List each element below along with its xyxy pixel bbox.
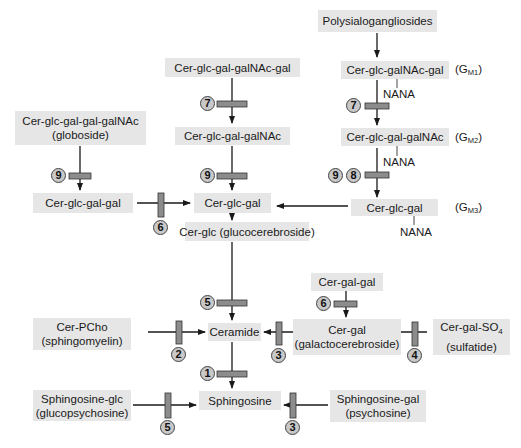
enzyme-badge: 6 [316,296,331,311]
node-polysialogangliosides: Polysialogangliosides [318,10,437,32]
node-label: Cer-glc-gal [366,201,422,215]
node-label: Polysialogangliosides [323,14,433,28]
node-glucocerebroside: Cer-glc (glucocerebroside) [185,222,309,241]
ganglioside-name-gm3: (GM3) [455,201,482,215]
nana-label-gm3: NANA [400,225,432,239]
enzyme-block-bar [365,103,389,109]
node-label: Cer-glc-gal-gal [45,196,120,210]
enzyme-badge: 2 [171,347,186,362]
enzyme-block-bar [165,393,171,418]
enzyme-badge: 1 [200,366,215,381]
node-label: Cer-gal [328,323,366,337]
node-label-text: Cer-gal-SO [440,321,498,333]
enzyme-block-bar [217,101,247,107]
node-trihexosylceramide: Cer-glc-gal-gal [33,193,133,213]
enzyme-badge: 3 [285,420,300,435]
node-label: Cer-glc-gal-gal-galNAc [22,114,138,128]
node-sulfatide: Cer-gal-SO4 (sulfatide) [433,319,510,355]
node-gm3: Cer-glc-gal [351,199,438,216]
g-subscript: M1 [468,68,478,77]
enzyme-badge: 9 [328,168,343,183]
g-letter: G [459,201,468,213]
node-sublabel: (glucopsychosine) [36,406,129,420]
node-sphingomyelin: Cer-PCho (sphingomyelin) [33,318,131,350]
node-label: Cer-glc-gal-galNAc [184,129,281,143]
enzyme-badge: 9 [200,168,215,183]
g-letter: G [459,63,468,75]
enzyme-badge: 4 [407,348,422,363]
enzyme-badge: 5 [200,295,215,310]
g-subscript: M3 [468,206,478,215]
g-letter: G [459,131,468,143]
ganglioside-name-gm2: (GM2) [455,131,482,145]
node-digalactosylceramide: Cer-gal-gal [311,273,383,291]
node-glucopsychosine: Sphingosine-glc (glucopsychosine) [33,390,131,421]
enzyme-block-bar [290,393,296,418]
node-sublabel: (sulfatide) [446,340,497,354]
node-label: Cer-gal-gal [319,275,376,289]
sphingolipid-pathway-diagram: Polysialogangliosides Cer-glc-galNAc-gal… [0,0,521,448]
node-sublabel: (sphingomyelin) [41,334,122,348]
enzyme-badge: 9 [51,168,66,183]
node-sphingosine: Sphingosine [199,391,281,410]
enzyme-badge: 7 [200,96,215,111]
node-psychosine: Sphingosine-gal (psychosine) [330,390,426,422]
node-gm1: Cer-glc-galNAc-gal [341,61,449,79]
node-label: Cer-glc-gal-galNAc-gal [174,61,290,75]
nana-label-gm1: NANA [383,87,415,101]
node-asialo-gm2: Cer-glc-gal-galNAc [175,127,290,145]
enzyme-block-bar [276,322,282,345]
node-label: Cer-PCho [56,320,107,334]
node-galactocerebroside: Cer-gal (galactocerebroside) [293,319,401,355]
enzyme-block-bar [412,322,418,346]
node-ceramide: Ceramide [208,323,261,341]
node-globoside: Cer-glc-gal-gal-galNAc (globoside) [15,111,146,145]
node-label: Cer-glc (glucocerebroside) [179,225,315,239]
node-label: Ceramide [210,325,260,339]
ganglioside-name-gm1: (GM1) [455,63,482,77]
enzyme-badge: 5 [160,420,175,435]
enzyme-block-bar [176,321,182,344]
node-sublabel: (psychosine) [345,406,410,420]
node-label: Cer-glc-gal-galNAc [346,130,443,144]
node-label: Sphingosine-gal [337,392,419,406]
enzyme-block-bar [334,301,357,307]
node-sublabel: (globoside) [52,128,109,142]
node-label: Cer-gal-SO4 [440,320,503,339]
node-label-subscript: 4 [498,328,502,337]
g-subscript: M2 [468,136,478,145]
enzyme-badge: 7 [346,98,361,113]
node-label: Sphingosine-glc [41,392,123,406]
enzyme-badge: 8 [346,168,361,183]
node-asialo-gm1: Cer-glc-gal-galNAc-gal [165,58,300,77]
node-lactosylceramide: Cer-glc-gal [194,193,271,213]
enzyme-block-bar [217,371,247,377]
enzyme-block-bar [365,172,389,178]
node-label: Cer-glc-galNAc-gal [346,63,443,77]
enzyme-badge: 3 [271,348,286,363]
enzyme-block-bar [158,193,164,217]
node-label: Sphingosine [208,394,271,408]
nana-label-gm2: NANA [383,155,415,169]
enzyme-block-bar [217,300,247,306]
enzyme-badge: 6 [153,220,168,235]
node-sublabel: (galactocerebroside) [295,337,400,351]
node-label: Cer-glc-gal [204,196,260,210]
node-gm2: Cer-glc-gal-galNAc [341,128,449,146]
enzyme-block-bar [217,173,247,179]
enzyme-block-bar [69,173,91,179]
